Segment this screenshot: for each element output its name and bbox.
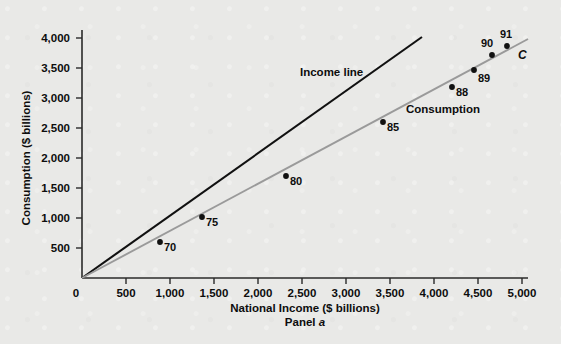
data-point[interactable] [157, 239, 163, 245]
x-tick-label: 0 [73, 287, 79, 299]
x-tick-label: 3,000 [332, 287, 361, 299]
y-tick-label: 500 [51, 242, 70, 254]
x-tick-label: 5,000 [508, 287, 537, 299]
x-axis-title: National Income ($ billions) [230, 302, 380, 314]
x-axis-tick-labels: 0 500 1,000 1,500 2,000 2,500 3,000 3,50… [73, 287, 537, 299]
data-point-label: 75 [206, 216, 218, 228]
x-axis-ticks [126, 278, 522, 284]
consumption-line-label: Consumption [406, 103, 480, 115]
figure-panel-a: 4,000 3,500 3,000 2,500 2,000 1,500 1,00… [0, 0, 561, 344]
data-point[interactable] [199, 214, 205, 220]
x-tick-label: 1,500 [200, 287, 229, 299]
y-tick-label: 4,000 [41, 32, 70, 44]
income-line-label: Income line [300, 66, 363, 78]
data-point[interactable] [283, 173, 289, 179]
data-point-label: 70 [164, 241, 176, 253]
x-tick-label: 3,500 [376, 287, 405, 299]
data-point[interactable] [489, 52, 495, 58]
x-tick-label: 4,000 [420, 287, 449, 299]
y-tick-label: 2,000 [41, 152, 70, 164]
income-line [82, 37, 422, 278]
data-point-label: 85 [387, 121, 399, 133]
data-point-label: 88 [456, 86, 468, 98]
y-tick-label: 1,000 [41, 212, 70, 224]
data-point-label: 90 [481, 37, 493, 49]
y-tick-label: 3,000 [41, 92, 70, 104]
data-point-label: 91 [500, 28, 512, 40]
y-tick-label: 1,500 [41, 182, 70, 194]
y-axis-title: Consumption ($ billions) [20, 90, 32, 225]
data-point[interactable] [380, 119, 386, 125]
data-point-label: 80 [290, 175, 302, 187]
panel-caption-prefix: Panel [285, 316, 319, 328]
x-tick-label: 4,500 [464, 287, 493, 299]
x-tick-label: 2,500 [288, 287, 317, 299]
x-tick-label: 2,000 [244, 287, 273, 299]
panel-caption: Panel a [285, 316, 326, 328]
chart-canvas: 4,000 3,500 3,000 2,500 2,000 1,500 1,00… [0, 0, 561, 344]
data-point[interactable] [471, 67, 477, 73]
y-axis-tick-labels: 4,000 3,500 3,000 2,500 2,000 1,500 1,00… [41, 32, 70, 254]
y-tick-label: 3,500 [41, 62, 70, 74]
data-point[interactable] [504, 43, 510, 49]
y-tick-label: 2,500 [41, 122, 70, 134]
data-point-label: 89 [478, 72, 490, 84]
x-tick-label: 1,000 [156, 287, 185, 299]
data-point[interactable] [449, 84, 455, 90]
consumption-endpoint-label: C [518, 48, 527, 62]
x-tick-label: 500 [116, 287, 135, 299]
panel-caption-letter: a [319, 316, 326, 328]
y-axis-ticks [76, 38, 82, 248]
